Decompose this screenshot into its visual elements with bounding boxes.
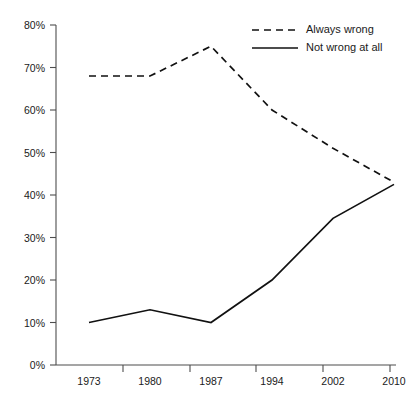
chart-canvas: 80% 70% 60% 50% 40% 30% 20% 10% 0% 1973 … [0,0,420,404]
y-axis-tick-label: 50% [24,147,45,159]
x-axis-tick-label: 2002 [321,375,345,387]
y-axis-tick-label: 80% [24,19,45,31]
legend: Always wrong Not wrong at all [252,23,382,53]
x-axis-tick-label: 1973 [77,375,101,387]
line-chart: 80% 70% 60% 50% 40% 30% 20% 10% 0% 1973 … [0,0,420,404]
x-axis-tick-label: 1994 [260,375,284,387]
series-line-always-wrong [89,46,394,182]
x-axis-tick-label: 1980 [138,375,162,387]
y-axis-tick-label: 70% [24,62,45,74]
series-line-not-wrong-at-all [89,184,394,322]
y-axis-tick-label: 40% [24,189,45,201]
y-axis-group: 80% 70% 60% 50% 40% 30% 20% 10% 0% [24,19,56,371]
y-axis-tick-label: 60% [24,104,45,116]
legend-label-not-wrong-at-all: Not wrong at all [306,41,382,53]
x-axis-tick-label: 1987 [199,375,223,387]
y-axis-tick-label: 0% [30,359,45,371]
y-axis-tick-label: 20% [24,274,45,286]
legend-label-always-wrong: Always wrong [306,23,374,35]
y-axis-tick-label: 10% [24,317,45,329]
series-group [89,46,394,322]
x-axis-group: 1973 1980 1987 1994 2002 2010 [56,365,406,387]
y-axis-tick-label: 30% [24,232,45,244]
x-axis-tick-label: 2010 [382,375,406,387]
